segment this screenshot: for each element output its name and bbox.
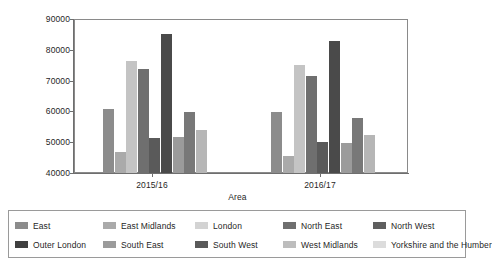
legend-item[interactable]: West Midlands <box>283 240 373 250</box>
legend-item[interactable]: London <box>195 221 283 231</box>
x-axis-title: Area <box>0 192 475 202</box>
legend-item-label: West Midlands <box>301 240 358 250</box>
bar <box>352 118 363 173</box>
legend-item-label: South East <box>121 240 164 250</box>
bar <box>294 65 305 173</box>
bar <box>115 152 126 173</box>
y-tick-label: 90000 <box>24 15 70 23</box>
bars-layer <box>75 20 407 173</box>
legend-swatch-icon <box>195 222 208 229</box>
legend-swatch-icon <box>283 241 296 248</box>
y-tick-label: 50000 <box>24 138 70 146</box>
bar <box>283 156 294 173</box>
bar <box>161 34 172 173</box>
legend-swatch-icon <box>195 241 208 248</box>
legend-item-label: East Midlands <box>121 221 176 231</box>
x-tick-mark <box>152 173 153 177</box>
legend-item[interactable]: Yorkshire and the Humber <box>373 240 461 250</box>
legend-swatch-icon <box>103 241 116 248</box>
legend: EastEast MidlandsLondonNorth EastNorth W… <box>8 210 466 258</box>
y-tick-label: 60000 <box>24 107 70 115</box>
bar <box>173 137 184 173</box>
bar <box>126 61 137 173</box>
legend-item[interactable]: North West <box>373 221 461 231</box>
legend-swatch-icon <box>283 222 296 229</box>
bar <box>317 142 328 173</box>
y-tick-label: 80000 <box>24 46 70 54</box>
legend-swatch-icon <box>15 241 28 248</box>
legend-item[interactable]: South East <box>103 240 195 250</box>
legend-item-label: London <box>213 221 242 231</box>
legend-item-label: Yorkshire and the Humber <box>391 240 492 250</box>
bar <box>196 130 207 173</box>
bar <box>138 69 149 173</box>
y-axis-line <box>73 19 74 174</box>
legend-item-label: North East <box>301 221 342 231</box>
legend-swatch-icon <box>373 222 386 229</box>
y-tick-label: 40000 <box>24 169 70 177</box>
y-tick-label: 70000 <box>24 77 70 85</box>
bar <box>329 41 340 174</box>
bar-group <box>271 20 375 173</box>
legend-swatch-icon <box>373 241 386 248</box>
x-tick-label-2016-17: 2016/17 <box>275 180 365 190</box>
legend-item[interactable]: South West <box>195 240 283 250</box>
bar <box>271 112 282 173</box>
bar <box>341 143 352 173</box>
legend-item-label: Outer London <box>33 240 86 250</box>
bar <box>184 112 195 173</box>
legend-item[interactable]: North East <box>283 221 373 231</box>
x-tick-mark <box>320 173 321 177</box>
legend-swatch-icon <box>103 222 116 229</box>
legend-item[interactable]: East Midlands <box>103 221 195 231</box>
legend-item-label: North West <box>391 221 434 231</box>
legend-item[interactable]: Outer London <box>15 240 103 250</box>
legend-swatch-icon <box>15 222 28 229</box>
legend-item-label: East <box>33 221 50 231</box>
legend-item-label: South West <box>213 240 258 250</box>
bar <box>364 135 375 173</box>
bar <box>306 76 317 173</box>
legend-item[interactable]: East <box>15 221 103 231</box>
x-tick-label-2015-16: 2015/16 <box>107 180 197 190</box>
bar-group <box>103 20 207 173</box>
x-axis-line <box>73 173 409 174</box>
bar <box>103 109 114 173</box>
bar <box>149 138 160 174</box>
